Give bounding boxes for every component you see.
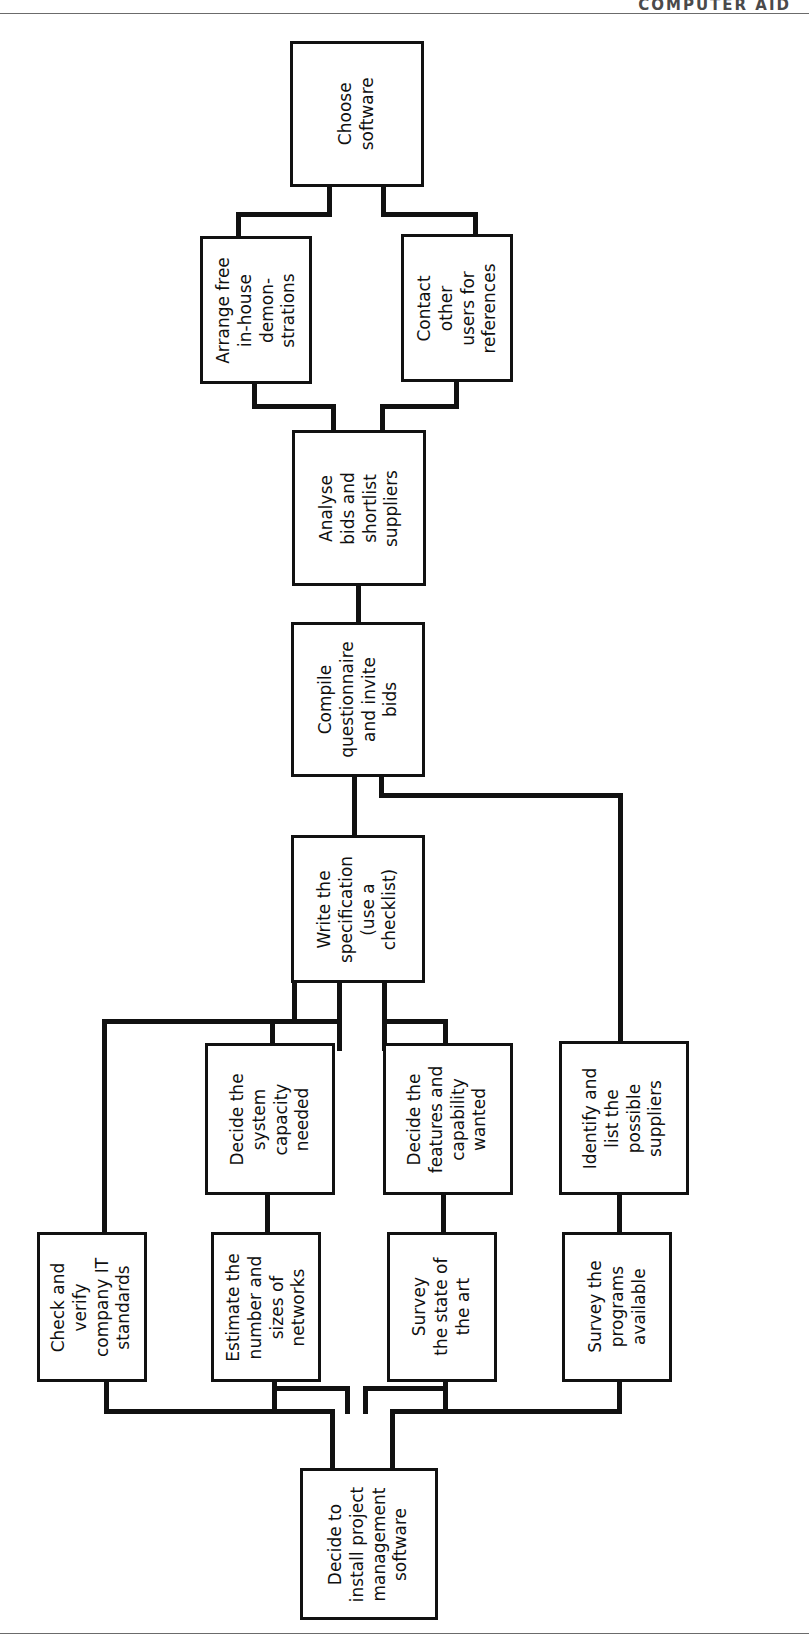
node-write-specification[interactable]: Write the specification (use a checklist…	[291, 835, 425, 983]
node-estimate-networks[interactable]: Estimate the number and sizes of network…	[211, 1232, 321, 1382]
flowchart: Choose softwareArrange free in-house dem…	[0, 0, 809, 1647]
connector-spec-left-horiz	[102, 1019, 297, 1024]
page-canvas: COMPUTER AID Choose softwareArrange free…	[0, 0, 809, 1647]
connector-spec-down-c	[382, 981, 387, 1051]
connector-survey-art-stub	[443, 1380, 448, 1410]
node-label-survey-state-of-art: Survey the state of the art	[409, 1258, 474, 1356]
connector-analyse-to-compile	[356, 584, 361, 624]
connector-arrange-down-horiz	[252, 404, 336, 409]
connector-install-up-right	[390, 1409, 395, 1471]
connector-check-down-horiz	[104, 1409, 334, 1414]
node-label-identify-suppliers: Identify and list the possible suppliers	[581, 1067, 668, 1169]
connector-capacity-horiz	[270, 1019, 342, 1024]
node-label-choose-software: Choose software	[335, 77, 379, 150]
node-label-contact-users: Contact other users for references	[414, 263, 501, 353]
connector-capacity-to-estimate	[265, 1193, 270, 1234]
node-contact-users[interactable]: Contact other users for references	[401, 234, 513, 382]
node-label-estimate-networks: Estimate the number and sizes of network…	[223, 1253, 310, 1361]
connector-check-down-stub	[104, 1380, 109, 1412]
node-label-survey-programs: Survey the programs available	[584, 1261, 649, 1353]
node-label-write-specification: Write the specification (use a checklist…	[315, 855, 402, 962]
node-label-decide-install: Decide to install project management sof…	[325, 1486, 412, 1601]
connector-features-up-stub	[443, 1019, 448, 1045]
connector-analyse-up-left	[331, 404, 336, 432]
connector-features-to-survey	[441, 1193, 446, 1234]
connector-estimate-down-horiz	[272, 1386, 350, 1391]
node-decide-install[interactable]: Decide to install project management sof…	[300, 1468, 438, 1620]
connector-features-horiz	[382, 1019, 448, 1024]
connector-estimate-mid-vert	[345, 1386, 350, 1414]
node-analyse-bids[interactable]: Analyse bids and shortlist suppliers	[292, 430, 426, 586]
connector-survey-art-horiz	[363, 1386, 448, 1391]
connector-spec-down-a	[292, 981, 297, 1023]
node-decide-capacity[interactable]: Decide the system capacity needed	[205, 1043, 335, 1195]
node-survey-state-of-art[interactable]: Survey the state of the art	[387, 1232, 497, 1382]
node-label-compile-questionnaire: Compile questionnaire and invite bids	[315, 641, 402, 757]
node-label-analyse-bids: Analyse bids and shortlist suppliers	[316, 470, 403, 547]
connector-arrange-up-stub	[236, 212, 241, 239]
node-identify-suppliers[interactable]: Identify and list the possible suppliers	[559, 1041, 689, 1195]
connector-check-left-vert	[102, 1019, 107, 1234]
connector-compile-right-horiz	[379, 793, 622, 798]
node-check-standards[interactable]: Check and verify company IT standards	[37, 1232, 147, 1382]
connector-spec-down-b	[337, 981, 342, 1051]
node-compile-questionnaire[interactable]: Compile questionnaire and invite bids	[291, 622, 425, 777]
node-label-decide-capacity: Decide the system capacity needed	[226, 1073, 313, 1165]
node-label-decide-features: Decide the features and capability wante…	[405, 1065, 492, 1173]
node-decide-features[interactable]: Decide the features and capability wante…	[383, 1043, 513, 1195]
connector-compile-down-left	[352, 775, 357, 837]
connector-choose-right-horiz	[381, 212, 478, 217]
node-survey-programs[interactable]: Survey the programs available	[562, 1232, 672, 1382]
node-arrange-demos[interactable]: Arrange free in-house demon- strations	[200, 236, 312, 384]
connector-estimate-down-stub	[272, 1380, 277, 1410]
connector-identify-up-stub	[618, 793, 623, 1043]
connector-survey-art-mid-vert	[363, 1386, 368, 1414]
connector-analyse-up-right	[380, 404, 385, 432]
connector-survey-prog-horiz	[390, 1409, 622, 1414]
connector-identify-to-survey	[617, 1193, 622, 1234]
node-label-arrange-demos: Arrange free in-house demon- strations	[213, 257, 300, 364]
connector-install-up-left	[330, 1409, 335, 1471]
connector-capacity-up-stub	[270, 1019, 275, 1045]
connector-survey-prog-stub	[617, 1380, 622, 1412]
connector-choose-left-horiz	[236, 212, 332, 217]
node-label-check-standards: Check and verify company IT standards	[49, 1257, 136, 1356]
node-choose-software[interactable]: Choose software	[290, 41, 424, 187]
connector-contact-down-horiz	[380, 404, 459, 409]
